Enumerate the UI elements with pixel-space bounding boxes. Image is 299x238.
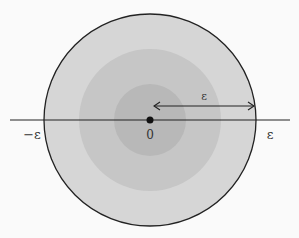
neg-epsilon-label: −ε <box>23 127 41 142</box>
diagram-canvas: 0 −ε ε ε <box>0 0 299 238</box>
origin-label: 0 <box>146 128 154 142</box>
radius-epsilon-label: ε <box>201 90 207 103</box>
origin-point <box>147 117 154 124</box>
epsilon-neighborhood-diagram: 0 −ε ε ε <box>0 0 299 238</box>
pos-epsilon-label: ε <box>267 127 274 142</box>
